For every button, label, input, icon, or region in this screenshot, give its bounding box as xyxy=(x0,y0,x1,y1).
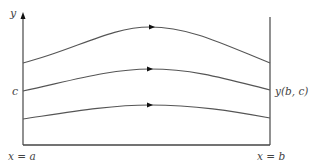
start-value-label: c xyxy=(12,85,18,98)
left-boundary-label: x = a xyxy=(8,150,36,162)
y-axis-arrow-icon xyxy=(21,12,26,19)
curve-middle-arrow-icon xyxy=(147,67,153,72)
curve-upper-arrow-icon xyxy=(149,25,155,30)
right-boundary-label: x = b xyxy=(257,150,285,162)
curve-upper xyxy=(23,27,270,63)
curve-middle xyxy=(23,69,270,91)
curve-lower-arrow-icon xyxy=(147,103,153,108)
end-value-label: y(b, c) xyxy=(274,85,308,97)
curve-lower xyxy=(23,105,270,119)
y-axis-label: y xyxy=(9,7,17,20)
diagram-canvas: y c y(b, c) x = a x = b xyxy=(0,0,315,168)
